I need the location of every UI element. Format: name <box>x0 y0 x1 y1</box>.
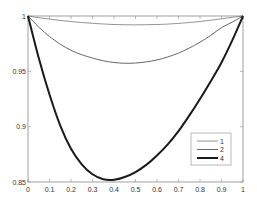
legend: 124 <box>191 133 231 165</box>
x-tick-label: 0.2 <box>66 186 76 193</box>
x-tick-label: 0.5 <box>131 186 141 193</box>
x-tick-label: 1 <box>241 186 245 193</box>
x-tick-label: 0.9 <box>217 186 227 193</box>
line-chart: 0.850.90.951 00.10.20.30.40.50.60.70.80.… <box>0 0 257 208</box>
x-tick-label: 0.3 <box>88 186 98 193</box>
x-tick-label: 0 <box>26 186 30 193</box>
x-tick-label: 0.7 <box>174 186 184 193</box>
x-tick-label: 0.6 <box>152 186 162 193</box>
legend-label: 4 <box>220 155 224 162</box>
y-tick-label: 1 <box>22 13 26 20</box>
x-tick-label: 0.8 <box>195 186 205 193</box>
y-tick-label: 0.85 <box>12 179 26 186</box>
y-tick-label: 0.9 <box>16 123 26 130</box>
legend-label: 1 <box>220 138 224 145</box>
x-tick-label: 0.1 <box>45 186 55 193</box>
y-tick-label: 0.95 <box>12 68 26 75</box>
x-tick-label: 0.4 <box>109 186 119 193</box>
legend-label: 2 <box>220 146 224 153</box>
